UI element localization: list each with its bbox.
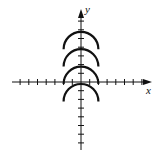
graph-figure: x y <box>0 0 160 161</box>
y-axis-label: y <box>84 3 90 15</box>
x-axis-label: x <box>145 84 151 96</box>
y-axis-arrow-icon <box>78 9 84 18</box>
